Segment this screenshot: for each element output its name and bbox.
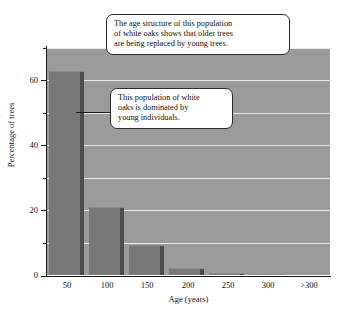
y-axis-title: Percentage of trees <box>6 70 16 200</box>
bar-top <box>249 274 284 275</box>
bar-top <box>49 71 84 72</box>
y-tick-minor-30 <box>43 178 47 179</box>
y-tick-label-20: 20 <box>16 206 38 214</box>
bar-100 <box>89 207 124 275</box>
bar-side <box>120 207 124 275</box>
callout-age-structure: The age structure of this population of … <box>106 14 290 55</box>
x-axis-line <box>46 276 331 277</box>
bar-face <box>49 71 84 275</box>
x-tick-label-100: 100 <box>87 280 127 290</box>
bar-side <box>80 71 84 275</box>
y-tick-minor-50 <box>43 113 47 114</box>
y-tick-label-60: 60 <box>16 76 38 84</box>
bar-face <box>129 245 164 275</box>
bar-side <box>160 245 164 275</box>
gridline-60 <box>47 80 330 81</box>
x-tick-label-over-300: >300 <box>289 280 329 290</box>
bar-top <box>209 273 244 274</box>
y-tick-major-40 <box>41 145 47 146</box>
y-tick-label-20-wrap: 20 <box>12 206 38 215</box>
gridline-30 <box>47 178 330 179</box>
bar-side <box>200 268 204 275</box>
bar-300 <box>249 274 284 275</box>
callout-young-dominated-line-1: This population of white <box>118 93 226 103</box>
y-tick-major-20 <box>41 210 47 211</box>
x-tick-label-250: 250 <box>208 280 248 290</box>
callout-leader-line <box>76 112 112 113</box>
x-tick-label-200: 200 <box>168 280 208 290</box>
x-tick-label-150: 150 <box>127 280 167 290</box>
figure: 60 40 20 0 Percentage of trees 50 100 15… <box>0 0 338 322</box>
callout-young-dominated-line-3: young individuals. <box>118 113 226 123</box>
bar-top <box>129 245 164 246</box>
bar-50 <box>49 71 84 275</box>
y-tick-major-60 <box>41 80 47 81</box>
bar-face <box>89 207 124 275</box>
x-tick-label-300: 300 <box>248 280 288 290</box>
y-tick-label-0-wrap: 0 <box>12 271 38 280</box>
callout-young-dominated-line-2: oaks is dominated by <box>118 103 226 113</box>
bar-200 <box>169 268 204 275</box>
y-tick-minor-70 <box>43 48 47 49</box>
bar-top <box>169 268 204 269</box>
x-tick-label-50: 50 <box>47 280 87 290</box>
plot-area <box>47 48 330 275</box>
y-tick-minor-10 <box>43 243 47 244</box>
y-tick-label-40: 40 <box>16 141 38 149</box>
gridline-40 <box>47 145 330 146</box>
bar-face <box>169 268 204 275</box>
callout-age-structure-line-2: of white oaks shows that older trees <box>114 29 283 39</box>
y-tick-major-0 <box>41 276 47 277</box>
y-tick-label-0: 0 <box>16 271 38 279</box>
bar-top <box>89 207 124 208</box>
callout-young-dominated: This population of white oaks is dominat… <box>110 88 233 129</box>
bar-150 <box>129 245 164 275</box>
callout-age-structure-line-1: The age structure of this population <box>114 19 283 29</box>
bar-250 <box>209 273 244 275</box>
callout-age-structure-line-3: are being replaced by young trees. <box>114 39 283 49</box>
x-axis-title: Age (years) <box>47 294 330 304</box>
